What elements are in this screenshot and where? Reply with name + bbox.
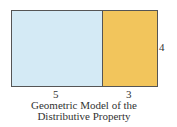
distributive-property-diagram: 5 3 4 Geometric Model of the Distributiv… bbox=[0, 0, 177, 127]
height-label: 4 bbox=[159, 42, 165, 53]
left-rectangle-region bbox=[11, 10, 103, 87]
caption-line-2: Distributive Property bbox=[0, 111, 168, 122]
figure-caption: Geometric Model of the Distributive Prop… bbox=[0, 100, 168, 122]
right-rectangle-region bbox=[102, 10, 158, 87]
